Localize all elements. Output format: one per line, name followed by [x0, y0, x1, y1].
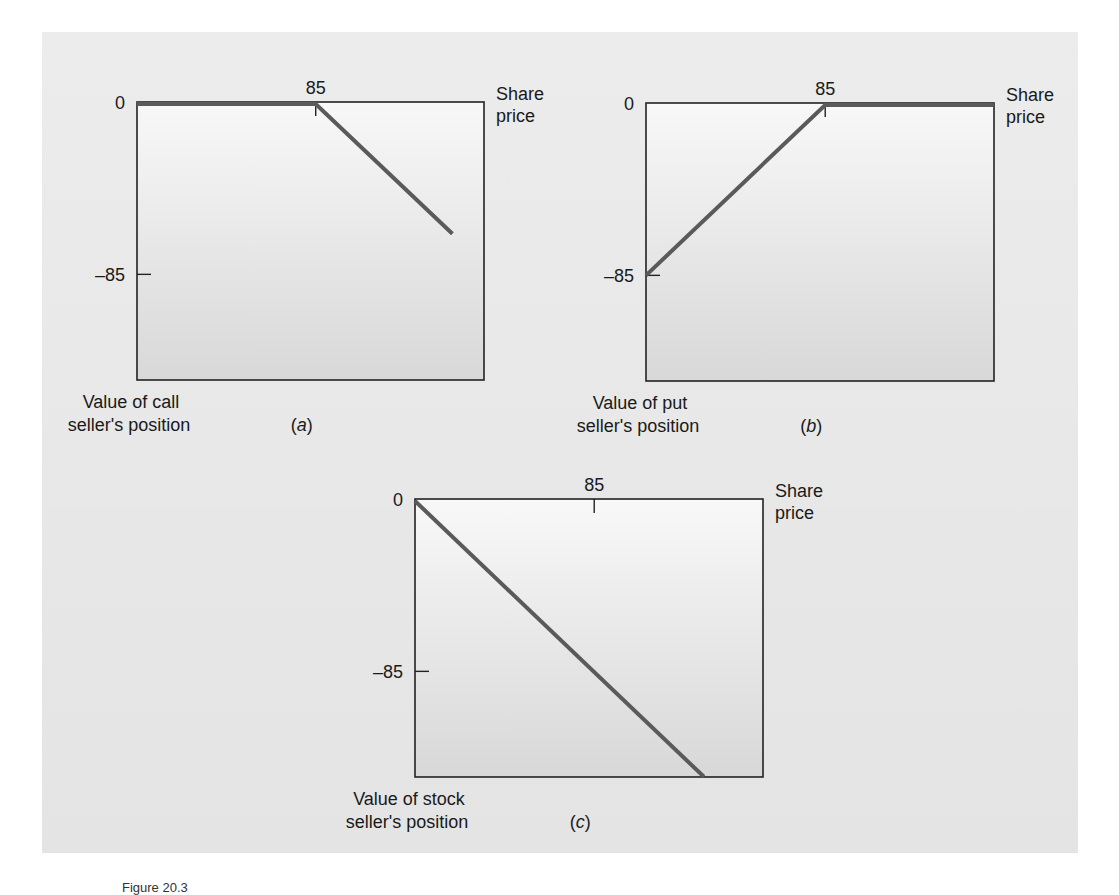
x-tick-label: 85: [815, 79, 835, 99]
y-tick-label: –85: [604, 266, 634, 286]
panel-label: (c): [570, 812, 591, 832]
y-axis-label: Value of callseller's position: [68, 392, 191, 435]
panel-label: (b): [800, 416, 822, 436]
plot-frame: [137, 102, 484, 380]
panel-label: (a): [291, 415, 313, 435]
panel-b: 850–85SharepriceValue of putseller's pos…: [577, 79, 1054, 436]
y-axis-label: Value of stockseller's position: [346, 789, 469, 832]
y-axis-label: Value of putseller's position: [577, 393, 700, 436]
plot-frame: [646, 103, 994, 381]
panel-a: 850–85SharepriceValue of callseller's po…: [68, 78, 544, 435]
y-tick-label: 0: [115, 93, 125, 113]
figure-caption: Figure 20.3: [122, 880, 188, 895]
x-axis-label: Shareprice: [775, 481, 823, 523]
y-tick-label: 0: [624, 94, 634, 114]
x-axis-label: Shareprice: [496, 84, 544, 126]
y-tick-label: 0: [393, 490, 403, 510]
y-tick-label: –85: [373, 662, 403, 682]
x-tick-label: 85: [306, 78, 326, 98]
panel-c: 850–85SharepriceValue of stockseller's p…: [346, 475, 823, 832]
x-tick-label: 85: [584, 475, 604, 495]
x-axis-label: Shareprice: [1006, 85, 1054, 127]
y-tick-label: –85: [95, 265, 125, 285]
plot-frame: [415, 499, 763, 777]
